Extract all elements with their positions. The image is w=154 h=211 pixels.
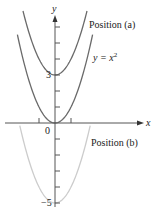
equation-exponent: 2 xyxy=(114,51,118,59)
y-axis-label: y xyxy=(51,3,57,14)
y-tick-label-3: 3 xyxy=(46,69,51,80)
x-axis-arrow-icon xyxy=(137,121,144,126)
x-axis-label: x xyxy=(145,117,151,128)
y-tick-label-neg5: −5 xyxy=(41,197,52,208)
position-a-label: Position (a) xyxy=(89,19,135,31)
position-b-label: Position (b) xyxy=(91,137,138,149)
origin-label: 0 xyxy=(45,125,50,136)
parabola-chart: x y 0 3 −5 Position (a) y = x2 Position … xyxy=(0,0,154,211)
y-axis-arrow-icon xyxy=(53,15,58,22)
equation-label: y = x2 xyxy=(92,51,118,63)
